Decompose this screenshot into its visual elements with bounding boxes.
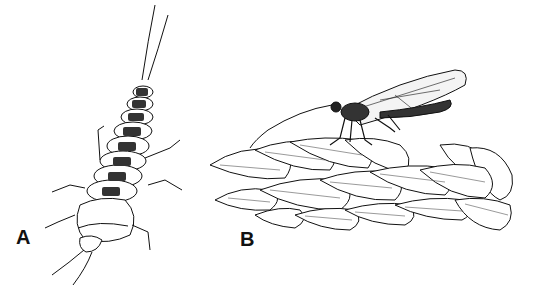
line-drawing [0,0,537,286]
grass-seed-head-drawing [210,138,513,230]
adult-insect-drawing [250,70,466,148]
illustration-figure: A B [0,0,537,286]
larva-drawing [45,5,182,285]
panel-label-a: A [16,226,30,249]
panel-label-b: B [240,228,254,251]
